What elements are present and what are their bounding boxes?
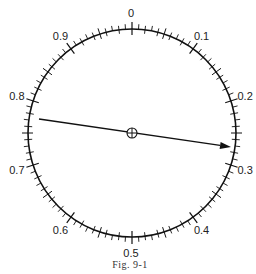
- dial-label: 0.7: [9, 164, 24, 176]
- dial-label: 0.2: [237, 90, 252, 102]
- dial-label: 0.1: [194, 30, 209, 42]
- arrowhead-icon: [220, 142, 231, 149]
- dial-label: 0.5: [123, 247, 138, 259]
- dial-figure: 00.10.20.30.40.50.60.70.80.9 Fig. 9-1: [0, 0, 256, 274]
- dial-label: 0.9: [53, 30, 68, 42]
- pivot-crossed-circle-icon: [127, 128, 137, 138]
- figure-caption: Fig. 9-1: [112, 259, 148, 270]
- dial-label: 0.8: [9, 90, 24, 102]
- dial-label: 0.4: [194, 224, 209, 236]
- dial-label: 0.6: [53, 224, 68, 236]
- dial-label: 0: [128, 7, 134, 19]
- dial-label: 0.3: [237, 164, 252, 176]
